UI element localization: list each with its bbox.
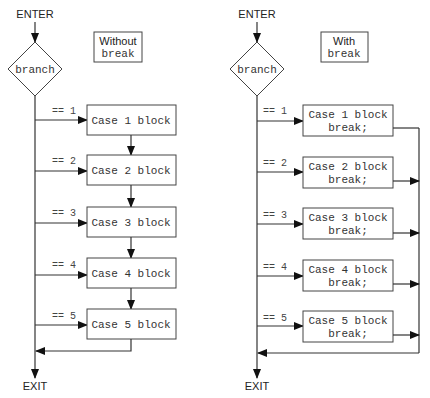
- break-statement: break;: [328, 225, 368, 237]
- case-block-label: Case 5 block: [308, 315, 388, 327]
- case-block-label: Case 1 block: [308, 109, 388, 121]
- break-statement: break;: [328, 122, 368, 134]
- case-condition: == 1: [52, 106, 76, 117]
- legend-title: With: [333, 35, 355, 47]
- case-block-label: Case 2 block: [91, 165, 171, 177]
- case-4: == 4 Case 4 block: [35, 258, 176, 288]
- case-2: == 2 Case 2 block break;: [257, 157, 419, 188]
- case-5: == 5 Case 5 block break;: [257, 311, 419, 342]
- case-2: == 2 Case 2 block: [35, 155, 176, 185]
- case-block-label: Case 3 block: [91, 217, 171, 229]
- return-arrow: [36, 339, 131, 351]
- case-condition: == 5: [52, 311, 76, 322]
- exit-label: EXIT: [23, 380, 48, 392]
- legend-subtitle: break: [101, 48, 134, 60]
- case-condition: == 3: [52, 208, 76, 219]
- break-statement: break;: [328, 277, 368, 289]
- case-condition: == 5: [263, 313, 287, 324]
- case-1: == 1 Case 1 block: [35, 105, 176, 135]
- case-5: == 5 Case 5 block: [35, 309, 176, 339]
- case-block-label: Case 4 block: [308, 264, 388, 276]
- case-3: == 3 Case 3 block: [35, 207, 176, 237]
- case-4: == 4 Case 4 block break;: [257, 260, 419, 291]
- case-block-label: Case 4 block: [91, 268, 171, 280]
- case-condition: == 2: [263, 158, 287, 169]
- flowchart-without-break: ENTER branch Without break EXIT == 1 Cas…: [8, 8, 176, 392]
- exit-label: EXIT: [245, 380, 270, 392]
- branch-label: branch: [15, 64, 55, 76]
- case-condition: == 4: [263, 262, 287, 273]
- break-statement: break;: [328, 328, 368, 340]
- branch-label: branch: [237, 64, 277, 76]
- case-condition: == 2: [52, 156, 76, 167]
- case-block-label: Case 3 block: [308, 212, 388, 224]
- switch-flowchart: ENTER branch Without break EXIT == 1 Cas…: [0, 0, 430, 398]
- case-1: == 1 Case 1 block break;: [257, 105, 419, 136]
- case-block-label: Case 1 block: [91, 115, 171, 127]
- enter-label: ENTER: [16, 8, 53, 20]
- case-block-label: Case 5 block: [91, 319, 171, 331]
- case-3: == 3 Case 3 block break;: [257, 208, 419, 239]
- legend-subtitle: break: [327, 48, 360, 60]
- case-condition: == 3: [263, 210, 287, 221]
- break-statement: break;: [328, 174, 368, 186]
- legend-title: Without: [99, 35, 136, 47]
- case-condition: == 4: [52, 260, 76, 271]
- case-block-label: Case 2 block: [308, 161, 388, 173]
- flowchart-with-break: ENTER branch With break EXIT == 1 Case 1…: [230, 8, 419, 392]
- enter-label: ENTER: [238, 8, 275, 20]
- case-condition: == 1: [263, 106, 287, 117]
